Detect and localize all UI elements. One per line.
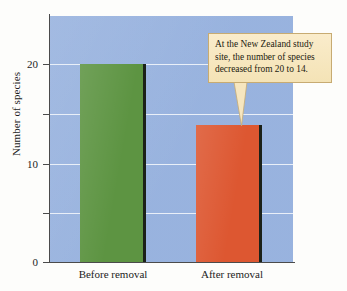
x-tick-label-after-removal: After removal: [165, 268, 299, 280]
bar-after-removal-shadow: [259, 125, 262, 262]
bar-before-removal: [80, 64, 146, 262]
y-tick-label-20: 20: [0, 58, 38, 70]
y-tick-0: [43, 262, 50, 263]
x-tick-label-before-removal: Before removal: [46, 268, 180, 280]
y-axis-title: Number of species: [10, 54, 22, 174]
bar-before-removal-shadow: [143, 64, 146, 262]
y-axis-line: [49, 14, 50, 263]
y-tick-10: [43, 164, 50, 165]
x-axis-line: [44, 262, 295, 263]
bar-before-removal-face: [80, 64, 143, 262]
y-tick-label-10: 10: [0, 158, 38, 170]
y-tick-15: [43, 114, 50, 115]
y-tick-20: [43, 64, 50, 65]
y-tick-5: [43, 213, 50, 214]
bar-chart-figure: Number of species 20 10 0 Before removal…: [0, 0, 347, 291]
bar-after-removal-face: [196, 125, 259, 262]
callout-annotation: At the New Zealand study site, the numbe…: [208, 33, 332, 83]
bar-after-removal: [196, 125, 262, 262]
callout-tail-icon: [232, 82, 250, 126]
y-tick-label-0: 0: [0, 256, 38, 268]
